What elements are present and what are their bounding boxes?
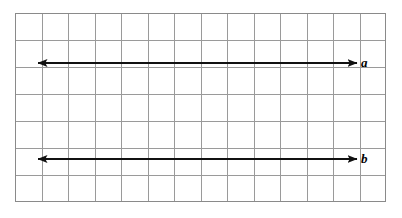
grid-lines (15, 13, 386, 202)
line-label-a: a (361, 56, 368, 69)
line-label-b: b (361, 152, 368, 165)
grid-container (15, 13, 386, 202)
grid-svg (15, 13, 386, 202)
grid-border (16, 14, 386, 202)
geometry-figure: a b (0, 0, 402, 218)
